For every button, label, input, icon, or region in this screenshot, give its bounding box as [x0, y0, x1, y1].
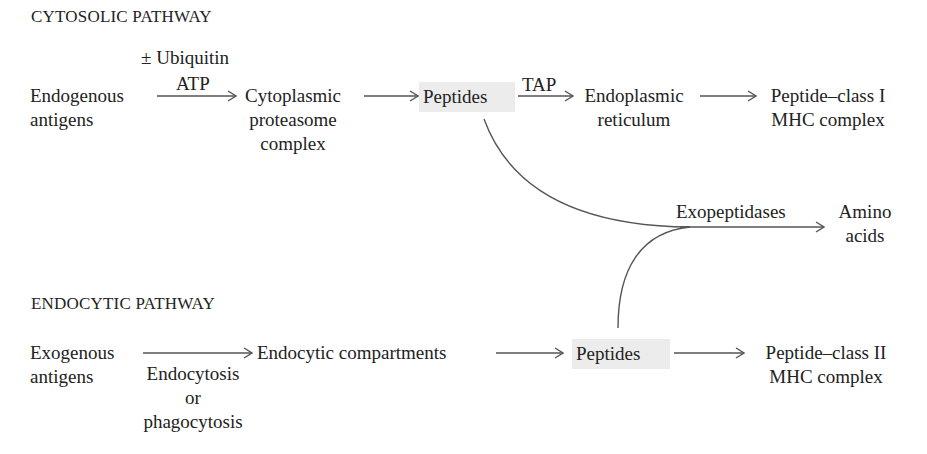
- endocytosis-line: phagocytosis: [131, 410, 255, 434]
- product-line: MHC complex: [750, 365, 902, 389]
- amino-line: acids: [832, 224, 898, 248]
- source-line: antigens: [30, 365, 114, 389]
- class-ii-mhc-product: Peptide–class II MHC complex: [750, 341, 902, 389]
- endocytic-peptides-node: Peptides: [572, 339, 670, 369]
- curve-cytosolic-to-exopeptidases: [484, 119, 690, 227]
- source-line: antigens: [30, 108, 124, 132]
- atp-label: ATP: [176, 72, 210, 96]
- exopeptidases-label: Exopeptidases: [676, 200, 786, 224]
- ubiquitin-label: ± Ubiquitin: [141, 46, 229, 70]
- endocytosis-label: Endocytosis or phagocytosis: [131, 362, 255, 434]
- proteasome-line: complex: [236, 132, 350, 156]
- er-line: reticulum: [573, 108, 695, 132]
- cytosolic-peptides-node: Peptides: [419, 82, 515, 112]
- class-i-mhc-product: Peptide–class I MHC complex: [757, 84, 899, 132]
- proteasome-line: proteasome: [236, 108, 350, 132]
- endocytic-pathway-title: ENDOCYTIC PATHWAY: [31, 292, 215, 316]
- cytosolic-pathway-title: CYTOSOLIC PATHWAY: [31, 5, 212, 29]
- source-line: Exogenous: [30, 341, 114, 365]
- product-line: MHC complex: [757, 108, 899, 132]
- product-line: Peptide–class II: [750, 341, 902, 365]
- exogenous-antigens-label: Exogenous antigens: [30, 341, 114, 389]
- endocytosis-line: or: [131, 386, 255, 410]
- curve-endocytic-to-exopeptidases: [618, 227, 690, 328]
- product-line: Peptide–class I: [757, 84, 899, 108]
- source-line: Endogenous: [30, 84, 124, 108]
- amino-line: Amino: [832, 200, 898, 224]
- endocytosis-line: Endocytosis: [131, 362, 255, 386]
- endocytic-compartments-label: Endocytic compartments: [257, 341, 446, 365]
- proteasome-line: Cytoplasmic: [236, 84, 350, 108]
- tap-label: TAP: [522, 73, 556, 97]
- endogenous-antigens-label: Endogenous antigens: [30, 84, 124, 132]
- proteasome-complex-label: Cytoplasmic proteasome complex: [236, 84, 350, 156]
- er-line: Endoplasmic: [573, 84, 695, 108]
- endoplasmic-reticulum-label: Endoplasmic reticulum: [573, 84, 695, 132]
- amino-acids-label: Amino acids: [832, 200, 898, 248]
